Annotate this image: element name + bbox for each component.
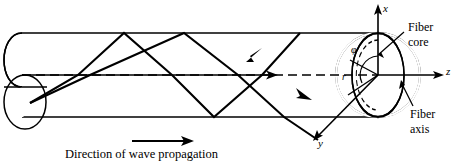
x-axis-label: x: [383, 3, 388, 14]
optical-fiber-diagram: [0, 0, 464, 166]
fiber-core-label-line1: Fiber: [408, 21, 433, 33]
fiber-axis-label-line2: axis: [410, 123, 429, 135]
y-axis-label: y: [318, 138, 323, 149]
propagation-caption: Direction of wave propagation: [65, 148, 218, 161]
azimuthal-angle-label: φ: [351, 45, 357, 55]
fiber-axis-label-line1: Fiber: [410, 108, 435, 120]
radius-label: r: [342, 72, 346, 82]
fiber-core-label-line2: core: [408, 36, 429, 48]
z-axis-label: z: [446, 66, 450, 77]
